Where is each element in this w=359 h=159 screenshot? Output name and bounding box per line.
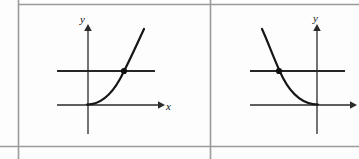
figure-screenshot: x y y <box>0 0 359 159</box>
page-background <box>0 0 359 159</box>
left-intersection-point <box>121 68 127 74</box>
right-y-axis-label: y <box>312 12 318 24</box>
left-x-axis-label: x <box>165 100 171 112</box>
left-y-axis-label: y <box>79 13 85 25</box>
right-intersection-point <box>276 68 282 74</box>
two-panel-exponential-figure: x y y <box>0 0 359 159</box>
